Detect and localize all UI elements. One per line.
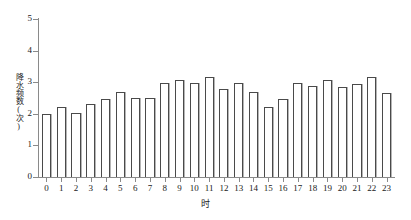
x-axis-tick	[298, 178, 299, 182]
x-axis-tick-label: 6	[127, 183, 143, 193]
x-axis-tick	[342, 178, 343, 182]
bar	[293, 83, 302, 177]
y-axis-tick-label: 0	[18, 171, 32, 181]
bar	[131, 98, 140, 177]
bar	[57, 107, 66, 177]
x-axis-title: 时	[0, 197, 411, 210]
x-axis-tick-label: 20	[334, 183, 350, 193]
x-axis-tick	[46, 178, 47, 182]
x-axis-tick	[387, 178, 388, 182]
bar	[175, 80, 184, 177]
x-axis-tick-label: 12	[216, 183, 232, 193]
x-axis-tick-label: 15	[260, 183, 276, 193]
x-axis-tick	[209, 178, 210, 182]
x-axis-tick	[194, 178, 195, 182]
bar	[219, 89, 228, 177]
x-axis-tick	[91, 178, 92, 182]
y-axis-line	[38, 18, 39, 178]
bar	[382, 93, 391, 177]
bar	[190, 83, 199, 177]
precipitation-frequency-bar-chart: 降水频数(次) 012345 0123456789101112131415161…	[0, 0, 411, 220]
y-axis-tick	[33, 19, 39, 20]
x-axis-tick-label: 2	[68, 183, 84, 193]
y-axis-title: 降水频数(次)	[9, 56, 23, 148]
x-axis-tick-label: 16	[275, 183, 291, 193]
y-axis-tick	[33, 51, 39, 52]
bar	[116, 92, 125, 177]
bar	[352, 84, 361, 177]
bar	[42, 114, 51, 177]
bar	[249, 92, 258, 177]
x-axis-tick	[283, 178, 284, 182]
x-axis-tick-label: 3	[83, 183, 99, 193]
x-axis-tick	[135, 178, 136, 182]
x-axis-tick	[76, 178, 77, 182]
bar	[308, 86, 317, 177]
bar	[86, 104, 95, 177]
x-axis-tick	[106, 178, 107, 182]
x-axis-tick	[150, 178, 151, 182]
bar	[101, 99, 110, 177]
bar	[145, 98, 154, 177]
bar	[160, 83, 169, 177]
x-axis-tick	[165, 178, 166, 182]
bar	[205, 77, 214, 177]
x-axis-tick	[372, 178, 373, 182]
x-axis-tick-label: 4	[98, 183, 114, 193]
bar	[338, 87, 347, 177]
x-axis-tick	[180, 178, 181, 182]
x-axis-tick	[224, 178, 225, 182]
x-axis-tick	[239, 178, 240, 182]
y-axis-tick	[33, 82, 39, 83]
x-axis-tick	[253, 178, 254, 182]
bar	[367, 77, 376, 177]
y-axis-tick	[33, 114, 39, 115]
x-axis-tick	[357, 178, 358, 182]
x-axis-tick-label: 18	[305, 183, 321, 193]
x-axis-tick-label: 19	[319, 183, 335, 193]
x-axis-tick	[327, 178, 328, 182]
y-axis-tick	[33, 145, 39, 146]
x-axis-tick-label: 5	[112, 183, 128, 193]
x-axis-tick	[268, 178, 269, 182]
x-axis-tick-label: 14	[245, 183, 261, 193]
x-axis-tick	[61, 178, 62, 182]
x-axis-tick-label: 10	[186, 183, 202, 193]
bar	[71, 113, 80, 177]
x-axis-tick-label: 1	[53, 183, 69, 193]
x-axis-tick-label: 23	[379, 183, 395, 193]
y-axis-tick-label: 3	[18, 76, 32, 86]
x-axis-tick-label: 7	[142, 183, 158, 193]
y-axis-tick-label: 2	[18, 108, 32, 118]
bar	[323, 80, 332, 177]
x-axis-tick-label: 13	[231, 183, 247, 193]
bar	[264, 107, 273, 177]
x-axis-tick-label: 22	[364, 183, 380, 193]
x-axis-tick-label: 11	[201, 183, 217, 193]
x-axis-tick-label: 21	[349, 183, 365, 193]
x-axis-tick	[120, 178, 121, 182]
y-axis-tick	[33, 177, 39, 178]
x-axis-tick-label: 9	[172, 183, 188, 193]
x-axis-tick	[313, 178, 314, 182]
y-axis-tick-label: 5	[18, 13, 32, 23]
bar	[234, 83, 243, 177]
y-axis-tick-label: 1	[18, 139, 32, 149]
bar	[278, 99, 287, 177]
x-axis-tick-label: 8	[157, 183, 173, 193]
y-axis-tick-label: 4	[18, 45, 32, 55]
x-axis-tick-label: 0	[38, 183, 54, 193]
x-axis-tick-label: 17	[290, 183, 306, 193]
